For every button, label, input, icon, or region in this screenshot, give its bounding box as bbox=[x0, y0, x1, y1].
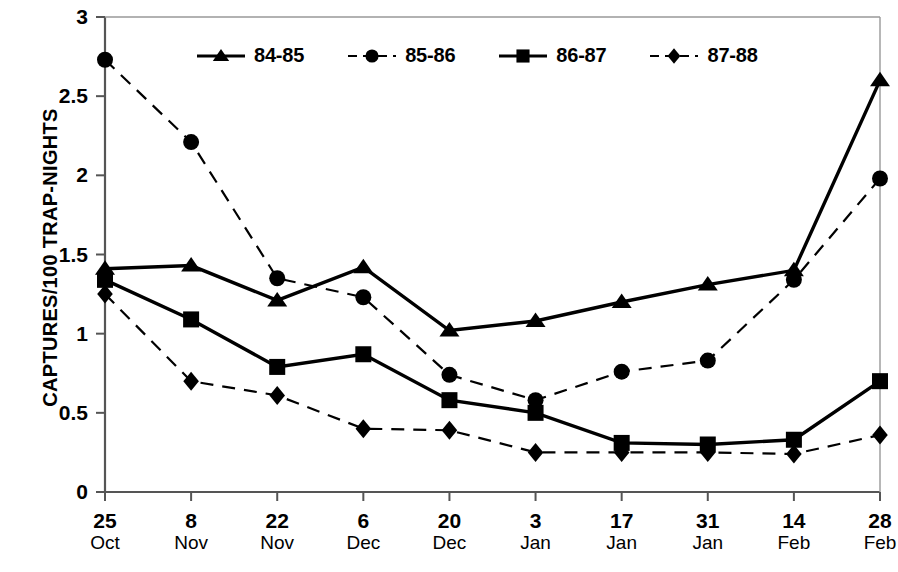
x-axis-tick-month: Jan bbox=[496, 532, 576, 555]
x-axis-tick-month: Dec bbox=[323, 532, 403, 555]
x-axis-tick-day: 25 bbox=[65, 510, 145, 532]
x-axis-tick-label: 28Feb bbox=[840, 510, 898, 555]
legend: 84-8585-8686-8787-88 bbox=[195, 44, 758, 67]
x-axis-tick-label: 25Oct bbox=[65, 510, 145, 555]
x-axis-tick-labels: 25Oct8Nov22Nov6Dec20Dec3Jan17Jan31Jan14F… bbox=[0, 0, 898, 572]
legend-marker-circle-icon bbox=[346, 47, 398, 65]
x-axis-tick-day: 17 bbox=[582, 510, 662, 532]
x-axis-tick-day: 20 bbox=[409, 510, 489, 532]
x-axis-tick-day: 6 bbox=[323, 510, 403, 532]
marker-diamond bbox=[668, 48, 681, 64]
x-axis-tick-day: 28 bbox=[840, 510, 898, 532]
x-axis-tick-label: 20Dec bbox=[409, 510, 489, 555]
x-axis-tick-label: 3Jan bbox=[496, 510, 576, 555]
x-axis-tick-day: 31 bbox=[668, 510, 748, 532]
legend-entry-87-88[interactable]: 87-88 bbox=[648, 44, 757, 67]
x-axis-tick-label: 14Feb bbox=[754, 510, 834, 555]
x-axis-tick-month: Jan bbox=[668, 532, 748, 555]
x-axis-tick-month: Feb bbox=[754, 532, 834, 555]
x-axis-tick-month: Dec bbox=[409, 532, 489, 555]
x-axis-tick-label: 17Jan bbox=[582, 510, 662, 555]
x-axis-tick-day: 8 bbox=[151, 510, 231, 532]
legend-entry-85-86[interactable]: 85-86 bbox=[346, 44, 455, 67]
legend-entry-86-87[interactable]: 86-87 bbox=[497, 44, 606, 67]
x-axis-tick-day: 14 bbox=[754, 510, 834, 532]
legend-label: 86-87 bbox=[556, 44, 606, 67]
x-axis-tick-label: 8Nov bbox=[151, 510, 231, 555]
x-axis-tick-label: 31Jan bbox=[668, 510, 748, 555]
x-axis-tick-day: 22 bbox=[237, 510, 317, 532]
legend-marker-triangle-icon bbox=[195, 47, 247, 65]
legend-label: 87-88 bbox=[707, 44, 757, 67]
x-axis-tick-month: Nov bbox=[151, 532, 231, 555]
legend-marker-square-icon bbox=[497, 47, 549, 65]
x-axis-tick-day: 3 bbox=[496, 510, 576, 532]
x-axis-tick-month: Nov bbox=[237, 532, 317, 555]
legend-marker-diamond-icon bbox=[648, 47, 700, 65]
x-axis-tick-month: Feb bbox=[840, 532, 898, 555]
legend-entry-84-85[interactable]: 84-85 bbox=[195, 44, 304, 67]
x-axis-tick-label: 6Dec bbox=[323, 510, 403, 555]
x-axis-tick-month: Oct bbox=[65, 532, 145, 555]
line-chart: CAPTURES/100 TRAP-NIGHTS 00.511.522.53 2… bbox=[0, 0, 898, 572]
x-axis-tick-label: 22Nov bbox=[237, 510, 317, 555]
marker-square bbox=[517, 49, 530, 62]
legend-label: 84-85 bbox=[254, 44, 304, 67]
x-axis-tick-month: Jan bbox=[582, 532, 662, 555]
legend-label: 85-86 bbox=[405, 44, 455, 67]
marker-circle bbox=[366, 49, 379, 62]
